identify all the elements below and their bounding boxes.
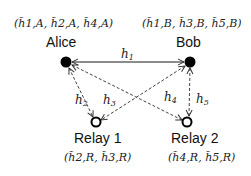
bob-node (185, 57, 196, 68)
relay1-tuple: (h̃2,R, h̃3,R) (64, 151, 131, 164)
edge-label-h2: h2 (75, 93, 88, 108)
bob-tuple: (h̃1,B, h̃3,B, h̃5,B) (142, 17, 242, 30)
relay1-label: Relay 1 (74, 130, 122, 146)
alice-label: Alice (46, 34, 77, 50)
edge-label-h5: h5 (196, 92, 209, 107)
edge-h5 (189, 68, 190, 116)
relay1-node (92, 118, 101, 127)
edge-label-h1: h1 (121, 47, 134, 62)
alice-node (61, 57, 72, 68)
relay2-node (183, 118, 192, 127)
edge-label-h4: h4 (164, 90, 177, 105)
edge-h3 (101, 66, 185, 120)
edge-label-h3: h3 (103, 93, 116, 108)
alice-tuple: (h̃1,A, h̃2,A, h̃4,A) (14, 17, 113, 30)
bob-label: Bob (176, 34, 201, 50)
relay2-tuple: (h̃4,R, h̃5,R) (168, 151, 235, 164)
relay2-label: Relay 2 (171, 130, 219, 146)
relay-network-diagram: Alice Bob Relay 1 Relay 2 (h̃1,A, h̃2,A,… (0, 0, 251, 176)
